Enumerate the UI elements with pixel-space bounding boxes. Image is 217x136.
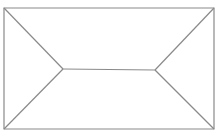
hip-top-left-line — [4, 8, 63, 69]
hip-top-right-line — [155, 8, 214, 70]
hip-bottom-right-line — [155, 70, 214, 129]
roof-outline — [4, 8, 214, 129]
hip-roof-diagram — [0, 0, 217, 136]
ridge-line — [63, 69, 155, 70]
hip-bottom-left-line — [4, 69, 63, 129]
hip-lines — [4, 8, 214, 129]
diagram-canvas — [0, 0, 217, 136]
